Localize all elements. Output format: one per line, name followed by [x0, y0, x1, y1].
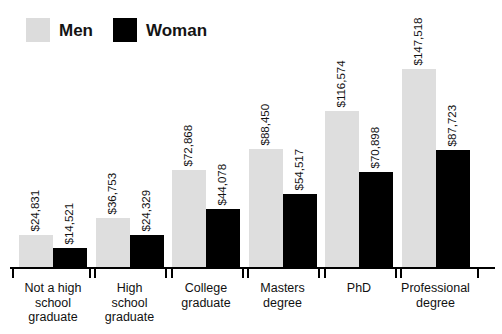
x-axis-tick-9	[400, 269, 402, 278]
bar-woman-4	[359, 172, 393, 268]
bar-value-label-men-0: $24,831	[30, 189, 42, 231]
bar-men-0	[19, 235, 53, 268]
category-label-line: degree	[235, 296, 331, 311]
x-axis-tick-7	[324, 269, 326, 278]
bar-value-label-woman-0: $14,521	[64, 202, 76, 244]
bar-value-label-men-2: $72,868	[183, 124, 195, 166]
bar-value-label-woman-5: $87,723	[446, 104, 458, 146]
bar-value-label-woman-3: $54,517	[293, 148, 305, 190]
x-axis-tick-0	[12, 269, 14, 278]
bar-woman-3	[283, 194, 317, 268]
x-axis-line	[10, 267, 495, 269]
bar-men-2	[172, 170, 206, 268]
x-axis-tick-5	[247, 269, 249, 278]
bar-value-label-men-1: $36,753	[106, 172, 118, 214]
x-axis-tick-4	[165, 269, 167, 278]
category-label-line: graduate	[82, 310, 178, 325]
x-axis-tick-8	[318, 269, 320, 278]
bar-woman-2	[206, 209, 240, 268]
bar-woman-5	[436, 150, 470, 268]
category-label-line: degree	[388, 296, 484, 311]
x-axis-tick-2	[89, 269, 91, 278]
plot-area: $24,831$14,521$36,753$24,329$72,868$44,0…	[0, 0, 502, 268]
bar-woman-0	[53, 248, 87, 268]
bar-men-4	[325, 111, 359, 268]
bar-men-1	[96, 218, 130, 268]
bar-value-label-men-3: $88,450	[259, 103, 271, 145]
x-axis-tick-3	[171, 269, 173, 278]
bar-men-3	[249, 149, 283, 268]
bar-value-label-men-5: $147,518	[412, 17, 424, 65]
bar-men-5	[402, 69, 436, 268]
bar-woman-1	[130, 235, 164, 268]
bar-value-label-woman-1: $24,329	[140, 189, 152, 231]
x-axis-tick-6	[242, 269, 244, 278]
x-axis-tick-11	[477, 269, 479, 278]
category-label-line: Professional	[388, 281, 484, 296]
bar-value-label-men-4: $116,574	[336, 60, 348, 107]
bar-chart: Men Woman $24,831$14,521$36,753$24,329$7…	[0, 0, 502, 334]
x-axis-tick-1	[94, 269, 96, 278]
category-label-5: Professionaldegree	[388, 281, 484, 310]
x-axis-tick-10	[395, 269, 397, 278]
bar-value-label-woman-4: $70,898	[370, 126, 382, 168]
bar-value-label-woman-2: $44,078	[217, 163, 229, 205]
